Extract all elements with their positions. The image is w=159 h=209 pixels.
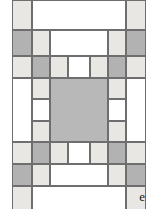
patch-row6-right-light: [108, 164, 126, 186]
patch-corner-top-left: [12, 0, 32, 30]
patch-row3-cell-7-light: [126, 56, 146, 78]
patch-row2-left-light: [32, 30, 50, 56]
patch-left-inner-light-bot: [32, 121, 50, 142]
patch-row3-cell-6-dark: [108, 56, 126, 78]
figure-canvas: e: [0, 0, 159, 209]
patch-right-side-white: [126, 78, 146, 142]
patch-row2-right-light: [108, 30, 126, 56]
patch-left-inner-white-mid: [32, 99, 50, 121]
patch-left-side-white: [12, 78, 32, 142]
patch-row6-right-dark: [126, 164, 146, 186]
patch-row5-cell-2-dark: [32, 142, 50, 164]
patch-right-inner-light-top: [108, 78, 126, 99]
patch-row5-cell-1-light: [12, 142, 32, 164]
patch-row3-cell-1-light: [12, 56, 32, 78]
patch-row3-cell-2-dark: [32, 56, 50, 78]
patch-corner-top-right: [126, 0, 146, 30]
patch-row5-cell-4-white: [68, 142, 90, 164]
patch-row6-center-white: [50, 164, 108, 186]
patch-row5-cell-3-light: [50, 142, 68, 164]
figure-label: e: [139, 190, 145, 203]
patch-row5-cell-7-light: [126, 142, 146, 164]
patch-row5-cell-5-light: [90, 142, 108, 164]
patch-center-square: [50, 78, 108, 142]
patch-row6-left-light: [32, 164, 50, 186]
patch-corner-bottom-left: [12, 186, 32, 209]
patch-bottom-border-center: [32, 186, 126, 209]
patch-row5-cell-6-dark: [108, 142, 126, 164]
patch-right-inner-white-mid: [108, 99, 126, 121]
patch-row6-left-dark: [12, 164, 32, 186]
patch-row3-cell-5-light: [90, 56, 108, 78]
patch-row3-cell-3-light: [50, 56, 68, 78]
quilt-block-diagram: [12, 0, 146, 186]
patch-row3-cell-4-white: [68, 56, 90, 78]
patch-row2-right-dark: [126, 30, 146, 56]
patch-left-inner-light-top: [32, 78, 50, 99]
patch-row2-center-white: [50, 30, 108, 56]
patch-top-border-center: [32, 0, 126, 30]
patch-right-inner-light-bot: [108, 121, 126, 142]
patch-row2-left-dark: [12, 30, 32, 56]
